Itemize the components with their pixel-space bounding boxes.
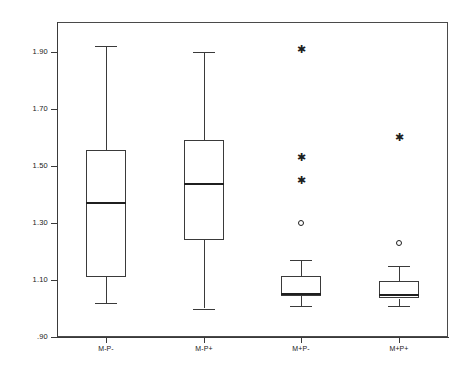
x-axis-tick — [301, 338, 302, 343]
x-axis-tick-label-1: M-P+ — [174, 345, 234, 352]
x-axis-tick-label-3: M+P+ — [369, 345, 429, 352]
median-line — [281, 293, 321, 295]
y-axis-tick — [51, 166, 57, 167]
iqr-box — [86, 150, 126, 277]
median-line — [86, 202, 126, 204]
y-axis-tick — [51, 223, 57, 224]
x-axis-tick-label-2: M+P- — [271, 345, 331, 352]
x-axis-tick — [204, 338, 205, 343]
x-axis-tick — [106, 338, 107, 343]
iqr-box — [184, 140, 224, 240]
x-axis-tick — [399, 338, 400, 343]
scan-edge — [0, 366, 474, 370]
upper-whisker-cap — [193, 52, 215, 53]
upper-whisker-cap — [388, 266, 410, 267]
upper-whisker — [106, 46, 107, 150]
extreme-outlier-star-marker: ✱ — [295, 152, 307, 163]
lower-whisker-cap — [388, 306, 410, 307]
x-axis-line — [57, 337, 449, 338]
x-axis-tick-label-0: M-P- — [76, 345, 136, 352]
upper-whisker — [204, 52, 205, 140]
median-line — [184, 183, 224, 185]
lower-whisker — [106, 277, 107, 303]
y-axis-tick-label: .90 — [8, 332, 48, 341]
y-axis-tick-label: 1.90 — [8, 47, 48, 56]
lower-whisker — [204, 240, 205, 308]
upper-whisker-cap — [95, 46, 117, 47]
y-axis-tick-label: 1.30 — [8, 218, 48, 227]
y-axis-tick — [51, 337, 57, 338]
upper-whisker-cap — [290, 260, 312, 261]
y-axis-tick-label: 1.10 — [8, 275, 48, 284]
lower-whisker-cap — [193, 309, 215, 310]
extreme-outlier-star-marker: ✱ — [393, 132, 405, 143]
y-axis-line — [57, 22, 58, 338]
upper-whisker — [399, 266, 400, 282]
y-axis-tick — [51, 109, 57, 110]
y-axis-tick-label: 1.70 — [8, 104, 48, 113]
upper-whisker — [301, 260, 302, 276]
lower-whisker-cap — [290, 306, 312, 307]
y-axis-tick — [51, 52, 57, 53]
lower-whisker — [301, 296, 302, 306]
extreme-outlier-star-marker: ✱ — [295, 44, 307, 55]
outlier-circle-marker — [396, 240, 402, 246]
y-axis-tick — [51, 280, 57, 281]
outlier-circle-marker — [298, 220, 304, 226]
extreme-outlier-star-marker: ✱ — [295, 175, 307, 186]
median-line — [379, 294, 419, 296]
lower-whisker — [399, 299, 400, 306]
boxplot-figure: 1.901.701.501.301.10.90 M-P-M-P+M+P-M+P+… — [0, 0, 474, 378]
y-axis-tick-label: 1.50 — [8, 161, 48, 170]
lower-whisker-cap — [95, 303, 117, 304]
